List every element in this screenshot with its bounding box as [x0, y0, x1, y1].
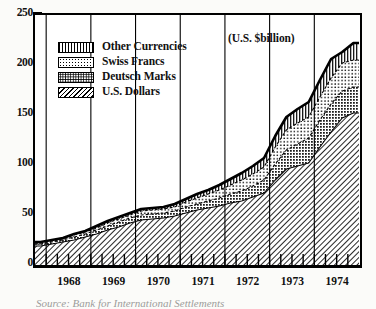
- legend-label: Swiss Francs: [102, 56, 164, 68]
- y-tick-label: 50: [5, 207, 33, 219]
- x-tick-label: 1969: [102, 275, 125, 287]
- legend-item: Other Currencies: [58, 40, 187, 54]
- legend-label: U.S. Dollars: [102, 86, 160, 98]
- x-tick-label: 1974: [325, 275, 348, 287]
- y-tick-label: 100: [5, 157, 33, 169]
- legend-label: Deutsch Marks: [102, 71, 176, 83]
- legend-swatch-dense-stipple: [58, 72, 94, 83]
- legend-swatch-diagonal-hatch: [58, 87, 94, 98]
- plot-area: Other CurrenciesSwiss FrancsDeutsch Mark…: [33, 13, 362, 268]
- x-axis: 1968196919701971197219731974: [0, 270, 376, 292]
- legend: Other CurrenciesSwiss FrancsDeutsch Mark…: [58, 40, 187, 100]
- legend-item: Deutsch Marks: [58, 70, 187, 84]
- x-tick-label: 1968: [57, 275, 80, 287]
- y-tick-label: 0: [5, 257, 33, 269]
- legend-swatch-vertical-stripes: [58, 42, 94, 53]
- y-tick-label: 200: [5, 57, 33, 69]
- y-tick-label: 150: [5, 107, 33, 119]
- x-tick-label: 1973: [281, 275, 304, 287]
- source-caption: Source: Bank for International Settlemen…: [36, 297, 224, 309]
- y-axis: 050100150200250: [0, 0, 33, 290]
- legend-label: Other Currencies: [102, 41, 187, 53]
- legend-swatch-light-stipple: [58, 57, 94, 68]
- y-tick-label: 250: [5, 7, 33, 19]
- units-annotation: (U.S. $billion): [228, 32, 295, 44]
- legend-item: U.S. Dollars: [58, 85, 187, 99]
- x-tick-label: 1971: [191, 275, 214, 287]
- x-tick-label: 1970: [147, 275, 170, 287]
- x-tick-label: 1972: [236, 275, 259, 287]
- legend-item: Swiss Francs: [58, 55, 187, 69]
